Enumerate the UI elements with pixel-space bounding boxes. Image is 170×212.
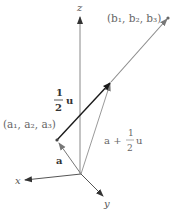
vector-a-plus-half-u: [81, 84, 110, 174]
vector-a-label: a: [56, 155, 63, 166]
axes: z x y: [15, 2, 110, 209]
sum-prefix: a +: [104, 135, 122, 146]
vector-half-u: [57, 83, 110, 140]
sum-symbol: u: [136, 135, 143, 146]
point-b: [166, 16, 169, 19]
z-axis-label: z: [76, 2, 83, 13]
point-a: [55, 138, 58, 141]
sum-numerator: 1: [128, 128, 134, 138]
vector-u-extension: [111, 19, 167, 82]
point-b-label: (b₁, b₂, b₃): [107, 12, 161, 24]
x-axis-label: x: [15, 175, 21, 186]
half-u-symbol: u: [66, 95, 73, 106]
vector-diagram: z x y (b₁, b₂, b₃) (a₁, a₂, a₃) a 1 2 u …: [0, 0, 170, 212]
y-axis-label: y: [103, 198, 110, 209]
a-plus-half-u-label: a + 1 2 u: [104, 128, 143, 153]
sum-denominator: 2: [127, 143, 133, 153]
half-u-label: 1 2 u: [54, 87, 73, 113]
half-u-numerator: 1: [56, 87, 63, 98]
half-u-denominator: 2: [55, 102, 62, 113]
point-a-label: (a₁, a₂, a₃): [3, 118, 56, 130]
x-axis: [25, 174, 81, 180]
y-axis: [81, 174, 103, 196]
